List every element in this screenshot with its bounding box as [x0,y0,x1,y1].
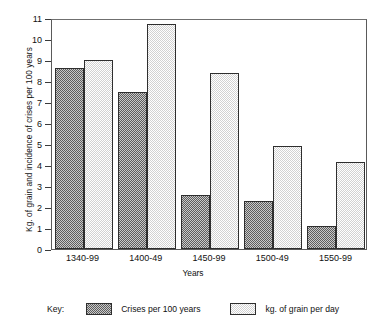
chart-root: Kg. of grain and incidence of crises per… [0,0,386,330]
bar-1340-99-grain [84,60,113,249]
legend-key-label: Key: [47,304,64,314]
y-tick-label: 5 [37,141,42,150]
plot-inner [52,20,366,249]
y-tick-label: 6 [37,120,42,129]
bar-1400-49-crises [118,92,147,250]
y-tick-mark-icon [45,40,51,41]
y-axis-title: Kg. of grain and incidence of crises per… [25,15,34,265]
bar-1550-99-crises [307,226,336,249]
legend-swatch-crises-icon [86,303,112,315]
y-tick-label: 7 [37,99,42,108]
y-tick-label: 0 [37,246,42,255]
bar-group-1340-99 [52,20,115,249]
bar-group-1400-49 [115,20,178,249]
bar-group-1500-49 [242,20,305,249]
y-tick-label: 1 [37,225,42,234]
y-tick-mark-icon [45,229,51,230]
bar-group-1550-99 [305,20,368,249]
y-tick-mark-icon [45,208,51,209]
x-axis-title: Years [0,268,386,278]
legend-label-crises: Crises per 100 years [121,304,200,314]
legend-entry-grain: kg. of grain per day [230,303,339,315]
y-tick-label: 10 [32,36,42,45]
y-tick-mark-icon [45,145,51,146]
bar-group-1450-99 [178,20,241,249]
y-tick-label: 4 [37,162,42,171]
x-tick-label-1450-99: 1450-99 [177,253,240,263]
x-tick-label-1340-99: 1340-99 [51,253,114,263]
bar-1450-99-grain [210,73,239,249]
y-tick-mark-icon [45,61,51,62]
bar-1340-99-crises [55,68,84,249]
y-tick-mark-icon [45,103,51,104]
plot-area [51,19,367,250]
y-tick-mark-icon [45,19,51,20]
x-tick-label-1500-49: 1500-49 [241,253,304,263]
legend: Key: Crises per 100 years kg. of grain p… [0,303,386,315]
y-tick-mark-icon [45,124,51,125]
legend-label-grain: kg. of grain per day [265,304,339,314]
bar-1450-99-crises [181,195,210,249]
y-tick-mark-icon [45,250,51,251]
y-tick-mark-icon [45,187,51,188]
legend-swatch-grain-icon [230,303,256,315]
y-tick-label: 2 [37,204,42,213]
x-tick-label-1550-99: 1550-99 [304,253,367,263]
bar-1500-49-grain [273,146,302,249]
y-tick-mark-icon [45,166,51,167]
y-tick-mark-icon [45,82,51,83]
y-tick-label: 9 [37,57,42,66]
bar-1500-49-crises [244,201,273,249]
bar-1550-99-grain [336,162,365,249]
bar-1400-49-grain [147,24,176,249]
y-tick-label: 11 [33,15,42,24]
y-tick-label: 8 [37,78,42,87]
y-tick-label: 3 [37,183,42,192]
legend-entry-crises: Crises per 100 years [86,303,200,315]
x-tick-label-1400-49: 1400-49 [114,253,177,263]
